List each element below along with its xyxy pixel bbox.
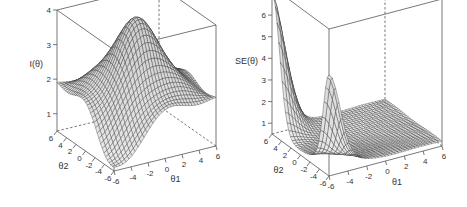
se-z-axis-label: SE(θ) [235, 56, 258, 66]
se-x-tick-mark [367, 166, 368, 170]
info-z-axis: 1234I(θ) [30, 6, 58, 119]
info-z-tick-label: 4 [47, 6, 52, 15]
se-z-tick-label: 2 [262, 98, 267, 107]
se-y-tick-label: 4 [273, 144, 278, 153]
se-x-axis-label: θ1 [392, 177, 402, 187]
info-x-tick-mark [148, 163, 149, 167]
se-z-tick-label: 6 [262, 11, 267, 20]
se-z-tick-label: 3 [262, 76, 267, 85]
info-x-tick-label: 6 [216, 152, 221, 161]
se-y-tick-label: 6 [264, 137, 269, 146]
info-x-tick-mark [114, 171, 115, 175]
se-box-edge [329, 0, 442, 29]
se-x-tick-label: 0 [385, 167, 390, 176]
info-surface [57, 17, 216, 167]
info-box-edge [57, 10, 114, 50]
info-x-tick-label: -4 [129, 173, 137, 182]
information-surface-plot: 1234I(θ)-6-4-20246θ2-6-4-20246θ1 [0, 0, 233, 207]
info-x-tick-label: -2 [146, 169, 154, 178]
info-y-tick-label: -2 [85, 161, 93, 170]
info-x-tick-mark [216, 146, 217, 150]
info-z-tick-label: 3 [47, 41, 52, 50]
info-x-tick-mark [165, 159, 166, 163]
info-x-tick-mark [182, 154, 183, 158]
se-x-tick-mark [423, 151, 424, 155]
se-y-tick-mark [298, 155, 301, 159]
info-y-tick-label: 0 [77, 154, 82, 163]
info-hidden-edge [159, 106, 216, 146]
se-x-tick-label: 2 [404, 162, 409, 171]
se-z-tick-label: 5 [262, 33, 267, 42]
info-box-edge [57, 0, 159, 10]
se-y-tick-label: 0 [292, 158, 297, 167]
se-z-tick-label: 4 [262, 54, 267, 63]
se-y-axis-label: θ2 [273, 165, 283, 175]
info-x-tick-label: 0 [165, 165, 170, 174]
se-x-tick-mark [348, 171, 349, 175]
se-x-tick-label: -4 [346, 177, 354, 186]
info-y-tick-mark [64, 138, 67, 142]
se-z-tick-label: 1 [262, 119, 267, 128]
se-x-tick-label: 4 [423, 157, 428, 166]
info-x-tick-label: -6 [112, 177, 120, 186]
info-x-tick-label: 2 [182, 160, 187, 169]
info-x-tick-mark [199, 150, 200, 154]
se-y-tick-label: -2 [300, 165, 308, 174]
se-x-tick-mark [329, 176, 330, 180]
info-y-tick-label: -6 [104, 174, 112, 183]
information-surface-svg: 1234I(θ)-6-4-20246θ2-6-4-20246θ1 [0, 0, 233, 207]
se-x-tick-mark [442, 146, 443, 150]
info-y-axis-label: θ2 [58, 161, 68, 171]
info-box-edge [159, 0, 216, 25]
se-y-tick-mark [279, 141, 282, 145]
se-surface [272, 0, 442, 158]
info-y-tick-mark [83, 151, 86, 155]
se-y-tick-label: -6 [319, 179, 327, 188]
info-x-tick-mark [131, 167, 132, 171]
standard-error-surface-svg: 1234567SE(θ)-6-4-20246θ2-6-4-20246θ1 [233, 0, 467, 207]
info-y-tick-label: 2 [68, 147, 73, 156]
se-x-tick-label: 6 [442, 152, 447, 161]
info-x-tick-label: 4 [199, 156, 204, 165]
se-x-tick-label: -2 [365, 172, 373, 181]
se-x-tick-label: -6 [327, 182, 335, 191]
se-x-tick-mark [404, 156, 405, 160]
se-y-tick-label: -4 [310, 172, 318, 181]
se-y-tick-label: 2 [283, 151, 288, 160]
info-y-tick-mark [73, 144, 76, 148]
se-y-tick-mark [269, 134, 272, 138]
info-y-tick-mark [54, 131, 57, 135]
info-z-tick-label: 1 [47, 110, 52, 119]
info-y-tick-label: 4 [58, 141, 63, 150]
standard-error-surface-plot: 1234567SE(θ)-6-4-20246θ2-6-4-20246θ1 [233, 0, 467, 207]
info-y-tick-label: -4 [95, 167, 103, 176]
info-y-tick-label: 6 [49, 134, 54, 143]
info-z-axis-label: I(θ) [30, 59, 44, 69]
se-z-axis: 1234567SE(θ) [235, 0, 272, 128]
info-x-axis-label: θ1 [170, 174, 180, 184]
se-x-tick-mark [386, 161, 387, 165]
info-z-tick-label: 2 [47, 75, 52, 84]
se-y-tick-mark [288, 148, 291, 152]
